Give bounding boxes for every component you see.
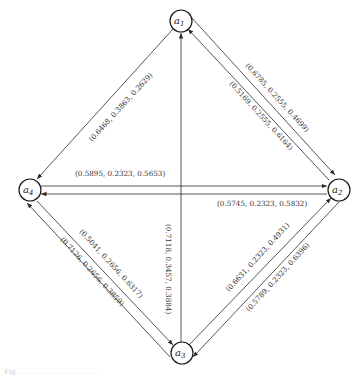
edge-label-a3-a2: (0.6631, 0.2323, 0.4931) <box>224 221 292 294</box>
node-a4: a4 <box>19 179 41 201</box>
graph-canvas: (0.6785, 0.2555, 0.4699) (0.5169, 0.2555… <box>0 0 363 379</box>
node-a3: a3 <box>171 342 193 364</box>
edge-label-a3-a1: (0.7118, 0.3457, 0.3884) <box>164 224 173 314</box>
edge-label-a2-a1: (0.5169, 0.2555, 0.6164) <box>228 79 296 152</box>
edge-label-a4-a2: (0.5895, 0.2323, 0.5653) <box>75 169 165 178</box>
edge-label-a1-a4: (0.6468, 0.3863, 0.2629) <box>87 71 155 144</box>
edge-label-a1-a2: (0.6785, 0.2555, 0.4699) <box>244 61 312 134</box>
edge-a1-a4 <box>37 29 173 179</box>
edge-a1-a2 <box>191 17 335 175</box>
edge-label-a2-a4: (0.5745, 0.2323, 0.5832) <box>217 199 307 208</box>
node-a2: a2 <box>328 179 350 201</box>
figure-caption: Fig. . . . . . . . . . . . . . . . . . . <box>4 368 204 376</box>
edge-a3-a2 <box>189 198 331 345</box>
edge-a4-a3 <box>37 201 173 345</box>
node-a1: a1 <box>170 10 192 32</box>
edge-label-a2-a3: (0.5789, 0.2323, 0.6396) <box>244 241 312 314</box>
edge-a2-a3 <box>193 202 339 357</box>
